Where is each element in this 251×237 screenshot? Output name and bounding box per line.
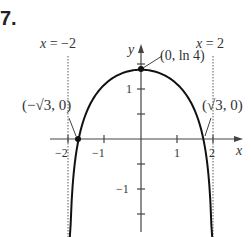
problem-number: 7. xyxy=(0,7,17,29)
peak-point xyxy=(138,66,144,72)
y-axis-label: y xyxy=(126,42,135,57)
tick-label-y-1: 1 xyxy=(126,82,132,96)
tick-label-y-neg1: −1 xyxy=(116,182,129,196)
x-axis-label: x xyxy=(235,143,243,158)
root-right-label: (√3, 0) xyxy=(202,97,243,114)
peak-label: (0, ln 4) xyxy=(160,48,205,64)
asymptote-left-label: x = −2 xyxy=(39,36,76,51)
x-axis-arrow-icon xyxy=(234,136,243,142)
root-left-label: (−√3, 0) xyxy=(22,97,71,114)
y-axis-arrow-icon xyxy=(138,44,144,53)
root-left-leader xyxy=(69,118,76,136)
tick-label-x-1: 1 xyxy=(174,146,180,160)
root-left-point xyxy=(75,136,81,142)
tick-label-x-neg1: −1 xyxy=(92,146,105,160)
root-right-leader xyxy=(205,118,211,136)
tick-label-x-neg2: −2 xyxy=(55,146,68,160)
function-graph: 7. x = −2 x = 2 x y −2 −1 1 2 1 −1 (0, l xyxy=(0,0,251,237)
tick-label-x-2: 2 xyxy=(209,146,215,160)
